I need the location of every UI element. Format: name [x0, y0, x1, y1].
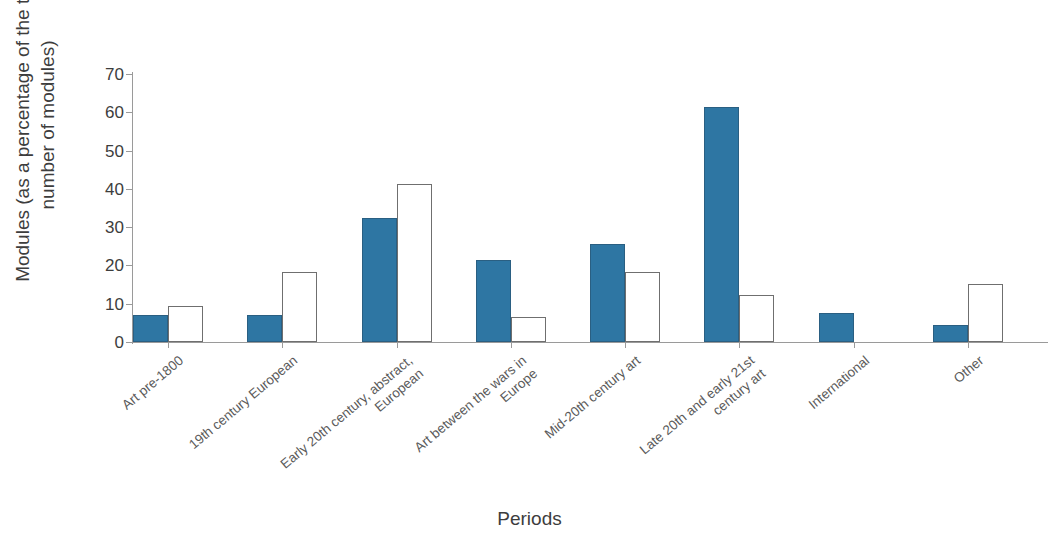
bar-series1[interactable] [704, 107, 739, 342]
bar-series1[interactable] [362, 218, 397, 342]
bar-chart-figure: Modules (as a percentage of the totalnum… [0, 0, 1059, 556]
bar-series1[interactable] [247, 315, 282, 342]
x-tick-mark [739, 342, 740, 348]
bar-series2[interactable] [168, 306, 203, 342]
y-tick-label: 20 [84, 256, 124, 276]
y-tick-mark [126, 74, 132, 75]
bar-series1[interactable] [819, 313, 854, 342]
y-axis-title-line1: Modules (as a percentage of the total [12, 0, 33, 282]
y-tick-mark [126, 227, 132, 228]
y-tick-mark [126, 112, 132, 113]
y-tick-label: 70 [84, 65, 124, 85]
plot-area [133, 74, 1047, 342]
x-tick-mark [625, 342, 626, 348]
x-axis-line [132, 342, 1048, 343]
y-tick-mark [126, 151, 132, 152]
x-tick-mark [511, 342, 512, 348]
y-axis-title-line2: number of modules) [37, 41, 58, 210]
y-axis-title: Modules (as a percentage of the totalnum… [10, 0, 60, 290]
y-tick-label: 10 [84, 295, 124, 315]
bar-series2[interactable] [625, 272, 660, 342]
x-tick-mark [168, 342, 169, 348]
y-tick-label: 40 [84, 180, 124, 200]
x-tick-mark [968, 342, 969, 348]
bar-series1[interactable] [933, 325, 968, 342]
y-tick-mark [126, 265, 132, 266]
y-tick-label: 30 [84, 218, 124, 238]
bar-series1[interactable] [590, 244, 625, 342]
y-tick-mark [126, 342, 132, 343]
bar-series2[interactable] [397, 184, 432, 342]
y-tick-mark [126, 304, 132, 305]
bar-series2[interactable] [739, 295, 774, 342]
x-tick-mark [854, 342, 855, 348]
x-tick-mark [397, 342, 398, 348]
y-tick-label: 0 [84, 333, 124, 353]
bar-series2[interactable] [282, 272, 317, 342]
x-tick-mark [282, 342, 283, 348]
bar-series1[interactable] [133, 315, 168, 342]
y-tick-label: 60 [84, 103, 124, 123]
bar-series1[interactable] [476, 260, 511, 342]
bar-series2[interactable] [511, 317, 546, 342]
y-tick-mark [126, 189, 132, 190]
y-tick-label: 50 [84, 142, 124, 162]
bar-series2[interactable] [968, 284, 1003, 342]
x-axis-title: Periods [0, 508, 1059, 530]
